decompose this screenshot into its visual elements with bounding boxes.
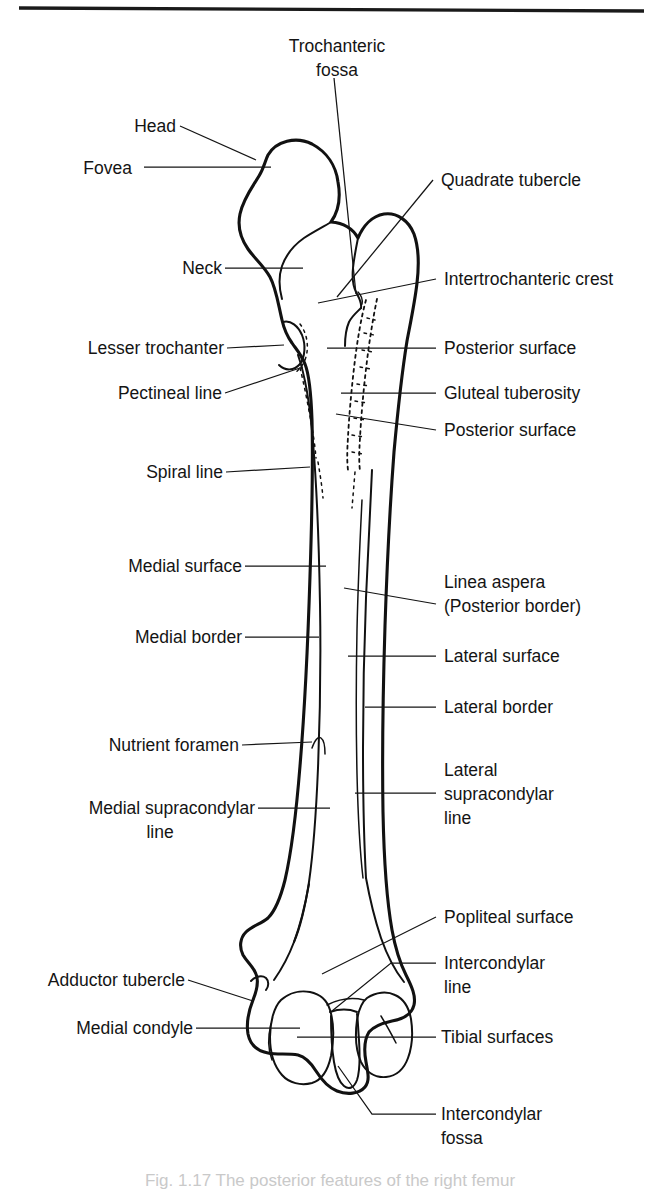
leader-head xyxy=(180,126,256,160)
femur-anatomy-diagram: Trochanteric fossa Head Fovea Quadrate t… xyxy=(0,0,652,1189)
label-lateral-supracondylar-line1: Lateral xyxy=(444,760,498,780)
label-medial-surface: Medial surface xyxy=(128,556,242,576)
label-medial-condyle: Medial condyle xyxy=(76,1018,193,1038)
label-lateral-surface: Lateral surface xyxy=(444,646,560,666)
label-medial-supracondylar-line2: line xyxy=(146,822,173,842)
leader-lesser-trochanter xyxy=(227,345,284,348)
label-linea-aspera-line2: (Posterior border) xyxy=(444,596,581,616)
label-intercondylar-fossa-line2: fossa xyxy=(441,1128,483,1148)
label-adductor-tubercle: Adductor tubercle xyxy=(48,970,185,990)
label-nutrient-foramen: Nutrient foramen xyxy=(109,735,239,755)
label-pectineal-line: Pectineal line xyxy=(118,383,222,403)
femur-outer-outline xyxy=(239,140,418,1093)
label-fovea: Fovea xyxy=(83,158,132,178)
leader-pectineal-line xyxy=(225,367,303,393)
label-quadrate-tubercle: Quadrate tubercle xyxy=(441,170,581,190)
label-intertrochanteric-crest: Intertrochanteric crest xyxy=(444,269,613,289)
label-spiral-line: Spiral line xyxy=(146,462,223,482)
label-lateral-border: Lateral border xyxy=(444,697,553,717)
label-lateral-supracondylar-line3: line xyxy=(444,808,471,828)
label-intercondylar-line-line1: Intercondylar xyxy=(444,953,545,973)
top-divider-rule xyxy=(19,8,644,11)
label-neck: Neck xyxy=(182,258,222,278)
label-trochanteric-fossa-line2: fossa xyxy=(316,60,358,80)
label-posterior-surface-lower: Posterior surface xyxy=(444,420,576,440)
leader-adductor-tubercle xyxy=(188,980,253,1001)
label-lateral-supracondylar-line2: supracondylar xyxy=(444,784,554,804)
label-popliteal-surface: Popliteal surface xyxy=(444,907,573,927)
leader-spiral-line xyxy=(226,467,310,472)
label-intercondylar-line-line2: line xyxy=(444,977,471,997)
label-intercondylar-fossa-line1: Intercondylar xyxy=(441,1104,542,1124)
label-gluteal-tuberosity: Gluteal tuberosity xyxy=(444,383,580,403)
label-medial-border: Medial border xyxy=(135,627,242,647)
label-lesser-trochanter: Lesser trochanter xyxy=(88,338,224,358)
label-posterior-surface-upper: Posterior surface xyxy=(444,338,576,358)
femur-bone-illustration xyxy=(239,140,418,1093)
label-trochanteric-fossa-line1: Trochanteric xyxy=(289,36,386,56)
label-head: Head xyxy=(134,116,176,136)
label-tibial-surfaces: Tibial surfaces xyxy=(441,1027,553,1047)
figure-caption: Fig. 1.17 The posterior features of the … xyxy=(145,1171,515,1189)
label-medial-supracondylar-line1: Medial supracondylar xyxy=(89,798,256,818)
label-linea-aspera-line1: Linea aspera xyxy=(444,572,545,592)
figure-page: Trochanteric fossa Head Fovea Quadrate t… xyxy=(0,0,652,1189)
